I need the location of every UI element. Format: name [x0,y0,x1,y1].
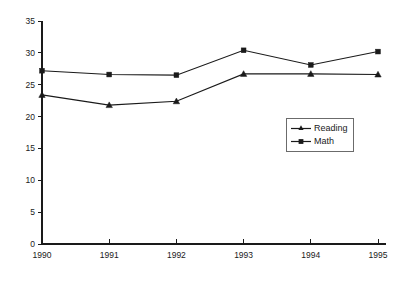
y-tick-label: 25 [26,80,36,90]
x-tick-label: 1990 [33,250,52,260]
x-tick-label: 1991 [100,250,119,260]
line-chart: 05101520253035 199019911992199319941995 … [0,0,401,285]
x-axis: 199019911992199319941995 [33,239,388,260]
data-point-marker-math [107,72,112,77]
legend-marker-triangle-icon [290,123,312,134]
data-point-marker-math [376,49,381,54]
data-point-marker-math [241,48,246,53]
y-axis: 05101520253035 [26,16,42,249]
data-series-group [39,48,381,108]
data-point-marker-reading [39,92,45,98]
data-point-marker-math [40,68,45,73]
y-tick-label: 15 [26,143,36,153]
legend-item-math: Math [290,135,348,148]
y-tick-label: 30 [26,48,36,58]
x-tick-label: 1993 [234,250,253,260]
y-tick-label: 20 [26,112,36,122]
y-tick-label: 10 [26,175,36,185]
x-tick-label: 1994 [301,250,320,260]
x-tick-label: 1995 [369,250,388,260]
legend-label-math: Math [314,136,334,147]
legend-label-reading: Reading [314,123,348,134]
legend-item-reading: Reading [290,122,348,135]
series-line-reading [42,74,378,105]
chart-legend: Reading Math [286,118,354,152]
x-tick-label: 1992 [167,250,186,260]
series-line-math [42,50,378,75]
data-point-marker-math [174,73,179,78]
y-tick-label: 0 [30,239,35,249]
legend-marker-square-icon [290,136,312,147]
y-tick-label: 5 [30,207,35,217]
data-point-marker-math [308,63,313,68]
y-tick-label: 35 [26,16,36,26]
